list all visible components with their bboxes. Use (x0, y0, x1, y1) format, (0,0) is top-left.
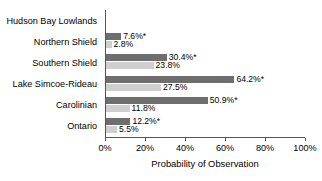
x-axis-tick (105, 138, 106, 141)
category-label: Northern Shield (0, 37, 97, 47)
bar (106, 126, 117, 133)
x-axis-tick-label: 100% (285, 143, 322, 154)
x-axis-title: Probability of Observation (105, 158, 305, 169)
category-label: Hudson Bay Lowlands (0, 16, 97, 26)
bar-value-label: 23.8% (156, 61, 180, 70)
category-label: Ontario (0, 121, 97, 131)
x-axis-tick-label: 80% (245, 143, 285, 154)
bar (106, 84, 161, 91)
x-axis-tick (265, 138, 266, 141)
bar-value-label: 2.8% (114, 40, 134, 49)
plot-area: 0%20%40%60%80%100%7.6%*2.8%30.4%*23.8%64… (105, 10, 305, 137)
bar (106, 62, 154, 69)
x-axis-tick (145, 138, 146, 141)
probability-of-observation-bar-chart: Hudson Bay LowlandsNorthern ShieldSouthe… (0, 0, 322, 181)
x-axis-line (105, 137, 305, 138)
x-axis-tick-label: 20% (125, 143, 165, 154)
bar-value-label: 5.5% (119, 125, 139, 134)
bar-value-label: 11.8% (132, 104, 156, 113)
x-axis-tick-label: 0% (85, 143, 125, 154)
category-label: Carolinian (0, 100, 97, 110)
x-axis-tick-label: 40% (165, 143, 205, 154)
bar (106, 41, 112, 48)
bar (106, 97, 208, 104)
category-label: Lake Simcoe-Rideau (0, 79, 97, 89)
bar-value-label: 50.9%* (210, 96, 238, 105)
x-axis-tick (225, 138, 226, 141)
bar-value-label: 64.2%* (236, 75, 264, 84)
bar (106, 105, 130, 112)
category-label: Southern Shield (0, 58, 97, 68)
category-axis-labels: Hudson Bay LowlandsNorthern ShieldSouthe… (0, 10, 100, 137)
x-axis-tick (185, 138, 186, 141)
x-axis-tick-label: 60% (205, 143, 245, 154)
bar-value-label: 27.5% (163, 83, 187, 92)
x-axis-tick (305, 138, 306, 141)
